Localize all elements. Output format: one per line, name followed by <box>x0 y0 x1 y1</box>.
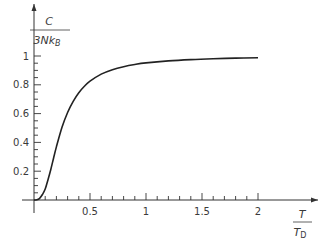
y-axis-arrow-icon <box>32 4 37 11</box>
y-tick-label: 0.6 <box>13 108 29 119</box>
debye-heat-capacity-chart: 0.511.520.20.40.60.81 C 3NkB T TD <box>0 0 325 243</box>
ticks <box>34 56 258 200</box>
y-tick-label: 0.2 <box>13 166 29 177</box>
y-axis-label: C 3NkB <box>30 15 70 48</box>
chart-canvas: 0.511.520.20.40.60.81 C 3NkB T TD <box>0 0 325 243</box>
x-tick-label: 1.5 <box>194 206 210 217</box>
x-label-numerator: T <box>299 208 307 221</box>
x-tick-label: 0.5 <box>82 206 98 217</box>
data-line <box>34 58 258 200</box>
y-label-numerator: C <box>45 15 53 28</box>
x-tick-label: 2 <box>255 206 261 217</box>
axes <box>22 4 318 213</box>
x-label-denominator: TD <box>294 226 307 240</box>
y-label-denominator: 3NkB <box>33 34 60 48</box>
y-tick-label: 0.4 <box>13 137 29 148</box>
y-tick-label: 1 <box>23 51 29 62</box>
x-axis-arrow-icon <box>311 198 318 203</box>
x-axis-label: T TD <box>293 208 312 240</box>
tick-labels: 0.511.520.20.40.60.81 <box>13 51 261 218</box>
x-tick-label: 1 <box>143 206 149 217</box>
y-tick-label: 0.8 <box>13 79 29 90</box>
